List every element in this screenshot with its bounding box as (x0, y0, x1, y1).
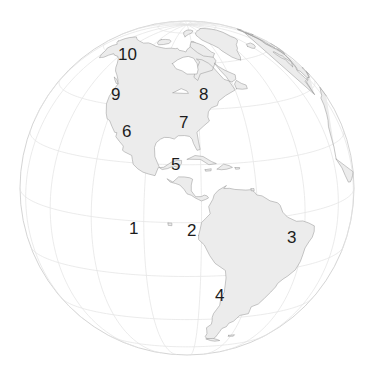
map-label-2: 2 (187, 222, 196, 239)
map-label-4: 4 (215, 287, 224, 304)
land-shape-puerto-rico (235, 168, 239, 170)
map-label-1: 1 (129, 220, 138, 237)
map-label-10: 10 (118, 46, 137, 63)
map-label-9: 9 (111, 86, 120, 103)
globe-svg (0, 0, 374, 374)
map-label-6: 6 (122, 123, 131, 140)
map-label-5: 5 (171, 156, 180, 173)
land-shape-trinidad (251, 189, 254, 191)
map-label-8: 8 (199, 86, 208, 103)
map-label-7: 7 (179, 114, 188, 131)
globe-map: 12345678910 (0, 0, 374, 374)
land-shape-galapagos (168, 223, 172, 226)
map-label-3: 3 (287, 229, 296, 246)
